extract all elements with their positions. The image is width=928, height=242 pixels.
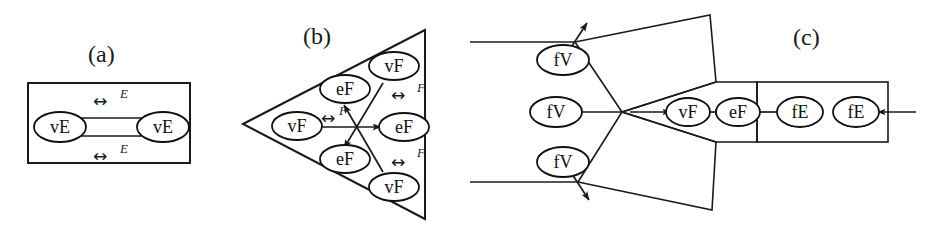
panel-b-node-vF-left: vF — [272, 112, 322, 140]
panel-b-node-eF-lower: eF — [320, 145, 370, 173]
panel-b-edge-label-lower-right: ↔ F — [391, 145, 426, 173]
panel-b-caption: (b) — [303, 23, 331, 49]
figure-root: (a) vE vE ↔ E ↔ E — [0, 0, 928, 242]
node-label: vE — [153, 117, 173, 137]
edge-label-symbol: F — [416, 80, 426, 95]
node-label: fV — [554, 50, 573, 70]
panel-b-node-vF-upper: vF — [369, 52, 419, 80]
figure-canvas: (a) vE vE ↔ E ↔ E — [0, 0, 928, 242]
node-label: eF — [729, 102, 747, 122]
node-label: vF — [384, 177, 403, 197]
panel-a-node-vE-right: vE — [137, 112, 189, 142]
edge-label-symbol: E — [119, 141, 128, 156]
bidirectional-arrow-icon: ↔ — [321, 108, 335, 128]
panel-c-node-fE-left: fE — [777, 97, 823, 127]
panel-c-cell-lower — [578, 112, 716, 210]
panel-b-node-eF-upper: eF — [320, 75, 370, 103]
panel-a-caption: (a) — [88, 41, 115, 67]
node-label: eF — [336, 149, 354, 169]
panel-c-node-eF: eF — [716, 98, 760, 126]
edge-label-symbol: E — [119, 86, 128, 101]
panel-a-edge-label-top: ↔ E — [93, 86, 128, 112]
node-label: fV — [554, 152, 573, 172]
panel-a-node-vE-left: vE — [34, 112, 86, 142]
panel-c-node-fE-right: fE — [833, 97, 879, 127]
bidirectional-arrow-icon: ↔ — [93, 146, 107, 166]
node-label: fE — [792, 102, 809, 122]
node-label: fV — [547, 102, 566, 122]
edge-label-symbol: F — [416, 145, 426, 160]
panel-a: (a) vE vE ↔ E ↔ E — [28, 41, 190, 166]
bidirectional-arrow-icon: ↔ — [93, 91, 107, 111]
panel-b-node-vF-lower: vF — [369, 173, 419, 201]
node-label: vE — [50, 117, 70, 137]
panel-b-edge-label-upper-right: ↔ F — [391, 80, 426, 106]
node-label: vF — [287, 116, 306, 136]
bidirectional-arrow-icon: ↔ — [391, 152, 405, 172]
node-label: vF — [384, 56, 403, 76]
node-label: eF — [336, 79, 354, 99]
panel-c-caption: (c) — [793, 24, 820, 50]
panel-c-node-vF: vF — [666, 98, 710, 126]
panel-c: (c) fV — [470, 15, 916, 210]
node-label: fE — [848, 102, 865, 122]
panel-b-edge-label-left: ↔ F — [321, 103, 348, 129]
panel-b: (b) vF eF vF eF — [243, 23, 429, 219]
panel-c-node-fV-lower: fV — [537, 147, 589, 177]
node-label: vF — [678, 102, 697, 122]
edge-label-symbol: F — [338, 103, 348, 118]
panel-b-node-eF-right: eF — [379, 113, 429, 141]
bidirectional-arrow-icon: ↔ — [391, 85, 405, 105]
panel-c-node-fV-upper: fV — [537, 45, 589, 75]
node-label: eF — [395, 117, 413, 137]
panel-c-node-fV-middle: fV — [530, 97, 582, 127]
panel-c-cell-upper — [575, 15, 716, 112]
